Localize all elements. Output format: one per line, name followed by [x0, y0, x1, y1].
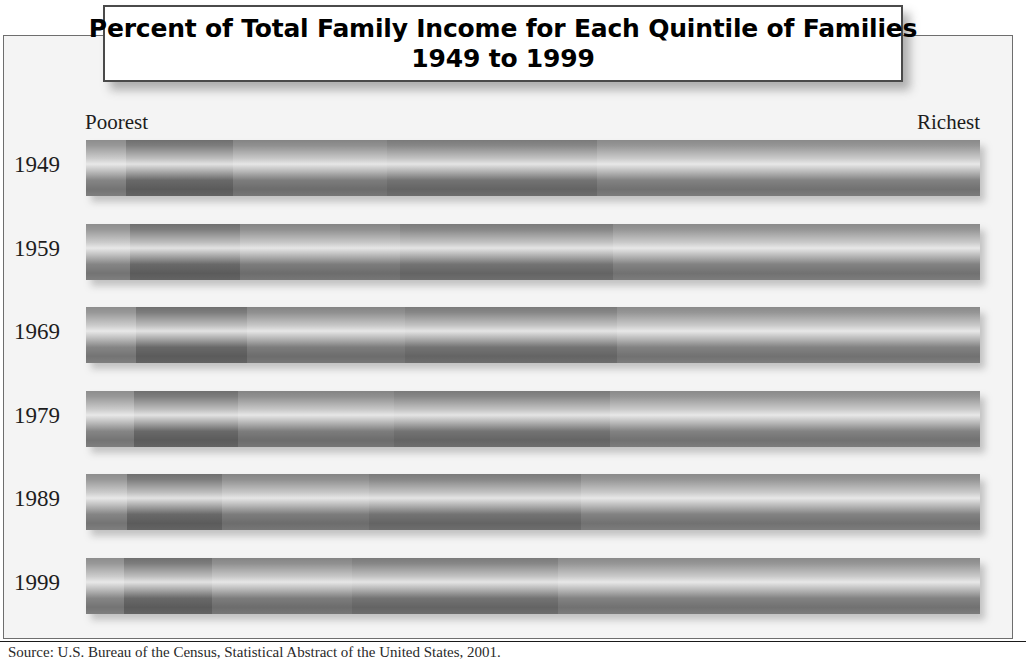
bar-row: 1999: [0, 558, 1026, 614]
stacked-bar: [86, 307, 980, 363]
page-subtitle: 1949 to 1999: [411, 44, 594, 74]
bar-segment-quintile-4: [387, 140, 597, 196]
bar-segment-quintile-5: [613, 224, 980, 280]
bar-segment-quintile-2: [136, 307, 247, 363]
bar-segment-quintile-2: [134, 391, 238, 447]
bar-segment-quintile-5: [617, 307, 980, 363]
bar-segment-quintile-1: [86, 224, 130, 280]
bar-segment-quintile-4: [352, 558, 558, 614]
bar-row: 1979: [0, 391, 1026, 447]
bar-segment-quintile-3: [238, 391, 394, 447]
bar-row: 1949: [0, 140, 1026, 196]
bar-segment-quintile-5: [610, 391, 980, 447]
bar-segment-quintile-5: [597, 140, 980, 196]
bar-segment-quintile-3: [233, 140, 388, 196]
bar-segment-quintile-3: [240, 224, 400, 280]
row-year-label: 1949: [14, 152, 78, 178]
row-year-label: 1969: [14, 319, 78, 345]
bar-row: 1989: [0, 474, 1026, 530]
bar-segment-quintile-4: [400, 224, 613, 280]
row-year-label: 1979: [14, 403, 78, 429]
bar-segment-quintile-3: [222, 474, 370, 530]
bar-segment-quintile-1: [86, 307, 136, 363]
stacked-bar: [86, 140, 980, 196]
stacked-bar: [86, 558, 980, 614]
chart-title-plate: Percent of Total Family Income for Each …: [103, 5, 903, 82]
bar-segment-quintile-2: [126, 140, 232, 196]
row-year-label: 1959: [14, 236, 78, 262]
bar-segment-quintile-5: [558, 558, 980, 614]
stacked-bar: [86, 391, 980, 447]
bar-row: 1959: [0, 224, 1026, 280]
bar-segment-quintile-4: [394, 391, 609, 447]
bar-segment-quintile-1: [86, 391, 134, 447]
row-year-label: 1999: [14, 570, 78, 596]
row-year-label: 1989: [14, 486, 78, 512]
bar-segment-quintile-1: [86, 140, 126, 196]
stacked-bar: [86, 474, 980, 530]
bar-segment-quintile-2: [130, 224, 240, 280]
bar-segment-quintile-3: [247, 307, 405, 363]
bar-row: 1969: [0, 307, 1026, 363]
bar-segment-quintile-4: [369, 474, 581, 530]
axis-label-poorest: Poorest: [85, 110, 148, 135]
bar-segment-quintile-2: [124, 558, 212, 614]
bar-segment-quintile-3: [212, 558, 352, 614]
axis-label-richest: Richest: [900, 110, 980, 135]
stacked-bar: [86, 224, 980, 280]
bar-segment-quintile-4: [405, 307, 617, 363]
page-title: Percent of Total Family Income for Each …: [89, 14, 917, 44]
bar-segment-quintile-1: [86, 474, 127, 530]
bar-segment-quintile-1: [86, 558, 124, 614]
bar-segment-quintile-2: [127, 474, 222, 530]
bar-segment-quintile-5: [581, 474, 980, 530]
